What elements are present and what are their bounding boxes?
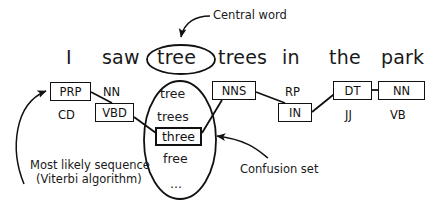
annotation-viterbi-line-2: (Viterbi algorithm) [36,172,142,186]
sentence-word: the [329,46,361,68]
sentence-word: trees [218,46,267,68]
alt-tag-nn: NN [103,85,120,99]
annotation-central-word: Central word [213,8,287,22]
annotation-viterbi-line-1: Most likely sequence [30,158,150,172]
sentence-word: park [381,46,424,68]
sentence-word: in [282,46,300,68]
alt-tag-cd: CD [58,108,75,122]
alt-tag-rp: RP [285,85,300,99]
link-three-nns [202,100,222,133]
alt-tag-vb: VB [390,108,406,122]
central-word-arrow [181,16,210,37]
diagram-canvas: I saw tree trees in the park PRP VBD NNS… [0,0,445,208]
sentence-word-central: tree [157,46,196,68]
confusion-set-arrow [217,136,268,158]
tag-box-vbd: VBD [95,103,134,122]
confusion-set-item: free [163,151,188,166]
alt-tag-jj: JJ [345,108,352,122]
confusion-set-item: tree [160,86,185,101]
confusion-set-item-ellipsis: ... [170,176,182,191]
tag-box-prp: PRP [50,82,91,101]
annotation-confusion-set: Confusion set [240,162,318,176]
sentence-word: saw [102,46,140,68]
tag-box-nns: NNS [212,81,256,100]
sentence-word: I [66,46,72,68]
tag-box-dt: DT [333,81,372,100]
confusion-set-item: trees [157,109,189,124]
link-nns-in [256,92,285,103]
confusion-set-item-selected: three [155,127,202,146]
tag-box-nn: NN [378,81,425,100]
tag-box-in: IN [278,103,312,122]
